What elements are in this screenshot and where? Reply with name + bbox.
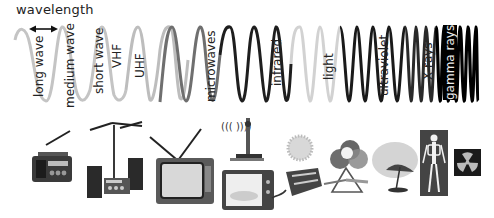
band-label-medium-wave: medium wave [63, 23, 77, 108]
sun-icon [288, 136, 312, 160]
radiation-symbol-icon [454, 149, 481, 176]
band-label-ultraviolet: ultraviolet [377, 35, 391, 96]
heater-icon [272, 168, 322, 198]
band-label-short-wave: short wave [92, 28, 106, 94]
x-ray-skeleton-icon [420, 130, 448, 196]
color-circles-icon [330, 140, 368, 169]
band-label-infrared: infrared [270, 39, 284, 86]
band-label-light: light [322, 53, 336, 80]
band-label-long-wave: long wave [32, 36, 46, 97]
electromagnetic-spectrum-diagram: wavelength [0, 0, 494, 218]
radio-icon [32, 131, 72, 182]
television-icon [150, 129, 214, 204]
radio-mast-icon: ((( )))) [221, 118, 264, 161]
band-label-uhf: UHF [133, 53, 147, 78]
band-label-vhf: VHF [110, 44, 124, 68]
microwave-oven-icon [222, 170, 274, 210]
wave-ultraviolet [340, 27, 405, 101]
band-label-gamma-rays: gamma rays [443, 25, 457, 100]
stereo-with-antenna-icon [87, 122, 143, 198]
band-label-microwaves: microwaves [204, 30, 218, 102]
sunshade-icon [372, 142, 418, 193]
band-label-x-rays: X-rays [421, 42, 435, 80]
prism-icon [324, 168, 368, 192]
wavelength-arrow-icon [29, 26, 58, 33]
